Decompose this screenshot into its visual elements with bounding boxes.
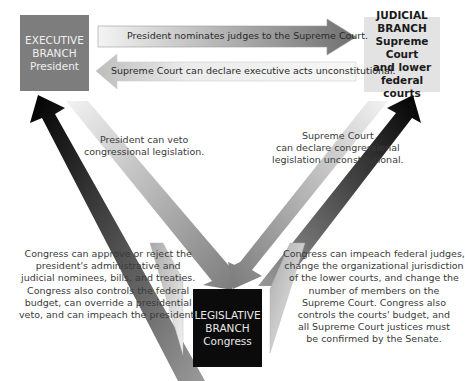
label-line: Congress can impeach federal judges,: [283, 248, 465, 260]
label-line: veto, and can impeach the president.: [19, 309, 197, 321]
label-line: president's administrative and: [19, 260, 197, 272]
label-line: can declare congressional: [272, 142, 404, 154]
label-line: be confirmed by the Senate.: [283, 333, 465, 345]
label-line: Supreme Court. Congress also: [283, 297, 465, 309]
executive-title-line2: BRANCH: [32, 47, 76, 60]
label-line: Congress can approve or reject the: [19, 248, 197, 260]
legislative-subtitle: Congress: [203, 335, 252, 348]
judicial-branch-box: JUDICIAL BRANCH Supreme Court and lower …: [364, 17, 440, 92]
label-line: judicial nominees, bills, and treaties.: [19, 272, 197, 284]
label-line: change the organizational jurisdiction: [283, 260, 465, 272]
judicial-subtitle-line1: Supreme Court: [364, 35, 440, 61]
executive-subtitle: President: [30, 60, 79, 73]
label-line: Supreme Court: [272, 130, 404, 142]
label-exec-to-judicial: President nominates judges to the Suprem…: [127, 30, 368, 41]
judicial-title-line1: JUDICIAL: [376, 9, 428, 22]
judicial-subtitle-line3: federal courts: [364, 74, 440, 100]
label-line: budget, can override a presidential: [19, 297, 197, 309]
label-line: President can veto: [84, 134, 204, 146]
label-line: controls the courts' budget, and: [283, 309, 465, 321]
label-line: all Supreme Court justices must: [283, 321, 465, 333]
label-legislative-to-exec: Congress can approve or reject the presi…: [19, 248, 197, 321]
legislative-title-line2: BRANCH: [205, 322, 249, 335]
legislative-branch-box: LEGISLATIVE BRANCH Congress: [193, 289, 262, 367]
legislative-title-line1: LEGISLATIVE: [194, 309, 260, 322]
label-legislative-to-judicial: Congress can impeach federal judges, cha…: [283, 248, 465, 346]
label-line: of the lower courts, and change the: [283, 272, 465, 284]
executive-title-line1: EXECUTIVE: [25, 34, 84, 47]
label-judicial-to-legislative: Supreme Court can declare congressional …: [272, 130, 404, 167]
label-line: legislation unconstitutional.: [272, 154, 404, 166]
label-judicial-to-exec: Supreme Court can declare executive acts…: [111, 65, 396, 76]
executive-branch-box: EXECUTIVE BRANCH President: [20, 15, 89, 91]
judicial-title-line2: BRANCH: [377, 22, 427, 35]
label-exec-to-legislative: President can veto congressional legisla…: [84, 134, 204, 158]
label-line: number of members on the: [283, 285, 465, 297]
label-line: Congress also controls the federal: [19, 285, 197, 297]
label-line: congressional legislation.: [84, 146, 204, 158]
